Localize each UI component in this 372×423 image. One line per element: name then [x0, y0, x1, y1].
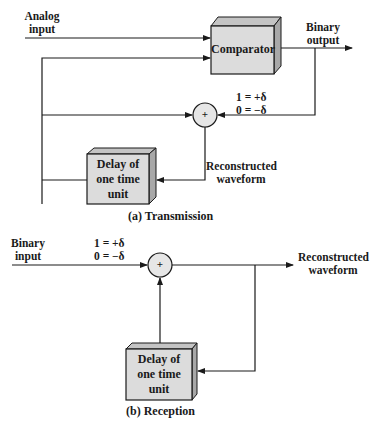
- recon-a-line1: Reconstructed: [206, 160, 276, 173]
- binary-input-line1: Binary: [10, 237, 46, 250]
- analog-input-label: Analog input: [24, 10, 60, 36]
- reconstructed-label-a: Reconstructed waveform: [206, 160, 276, 186]
- reconstructed-label-b: Reconstructed waveform: [298, 251, 368, 277]
- binary-output-label-line1: Binary: [303, 21, 343, 34]
- binary-input-line2: input: [10, 250, 46, 263]
- sum-symbol-a: +: [199, 108, 211, 121]
- sum-symbol-b: +: [154, 258, 166, 271]
- caption-reception: (b) Reception: [126, 404, 195, 419]
- delta-zero-a: 0 = −δ: [236, 104, 267, 117]
- sum-to-delay-line: [157, 127, 205, 180]
- delay-a-line1: Delay of: [87, 157, 149, 172]
- recon-a-line2: waveform: [206, 173, 276, 186]
- analog-input-label-line2: input: [24, 23, 60, 36]
- delta-one-b: 1 = +δ: [94, 237, 125, 250]
- delay-label-b: Delay of one time unit: [126, 352, 192, 397]
- delta-zero-b: 0 = −δ: [94, 250, 125, 263]
- delta-one-a: 1 = +δ: [236, 91, 267, 104]
- delta-mapping-b: 1 = +δ 0 = −δ: [94, 237, 125, 263]
- delay-b-line1: Delay of: [126, 352, 192, 367]
- delay-b-line3: unit: [126, 382, 192, 397]
- delay-a-line2: one time: [87, 172, 149, 187]
- caption-transmission: (a) Transmission: [128, 209, 213, 224]
- binary-output-label: Binary output: [303, 21, 343, 47]
- delay-a-line3: unit: [87, 187, 149, 202]
- binary-input-label: Binary input: [10, 237, 46, 263]
- delay-b-line2: one time: [126, 367, 192, 382]
- delta-mapping-a: 1 = +δ 0 = −δ: [236, 91, 267, 117]
- output-to-delay-line: [198, 265, 255, 371]
- recon-b-line2: waveform: [298, 264, 368, 277]
- delay-label-a: Delay of one time unit: [87, 157, 149, 202]
- recon-b-line1: Reconstructed: [298, 251, 368, 264]
- comparator-label: Comparator: [211, 42, 274, 57]
- analog-input-label-line1: Analog: [24, 10, 60, 23]
- binary-output-label-line2: output: [303, 34, 343, 47]
